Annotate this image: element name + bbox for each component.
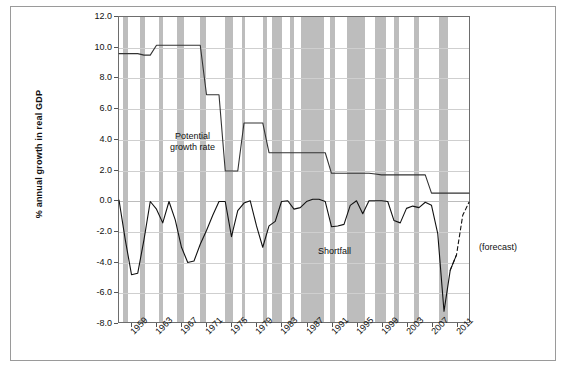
y-axis-title-label: % annual growth in real GDP xyxy=(34,89,44,217)
y-axis-tick-label: 6.0 xyxy=(66,104,112,113)
annotation-line: growth rate xyxy=(170,142,215,153)
series-layer xyxy=(119,17,469,322)
y-axis-tick-label: 8.0 xyxy=(66,73,112,82)
y-axis-tick-label: -8.0 xyxy=(66,319,112,328)
y-axis-tick-label: 0.0 xyxy=(66,196,112,205)
series-line-potential-growth-rate xyxy=(119,45,469,193)
y-axis-tick-label: 4.0 xyxy=(66,135,112,144)
y-axis-tick-label: 12.0 xyxy=(66,12,112,21)
y-axis-title: % annual growth in real GDP xyxy=(32,0,46,307)
annotation-shortfall: Shortfall xyxy=(318,246,351,257)
annotation-potential-growth-rate: Potentialgrowth rate xyxy=(170,131,215,153)
plot-area xyxy=(118,16,470,323)
y-axis-tick-label: -2.0 xyxy=(66,227,112,236)
y-axis-tick-mark xyxy=(114,323,118,324)
y-axis-tick-label: 2.0 xyxy=(66,166,112,175)
gdp-growth-chart: % annual growth in real GDP 12.010.08.06… xyxy=(0,0,574,368)
annotation-line: Potential xyxy=(170,131,215,142)
y-axis-tick-label: -4.0 xyxy=(66,258,112,267)
y-axis-tick-label: 10.0 xyxy=(66,43,112,52)
annotation-forecast: (forecast) xyxy=(479,242,517,253)
series-line-shortfall xyxy=(119,199,457,311)
y-axis-tick-label: -6.0 xyxy=(66,288,112,297)
series-line-forecast xyxy=(450,202,469,270)
